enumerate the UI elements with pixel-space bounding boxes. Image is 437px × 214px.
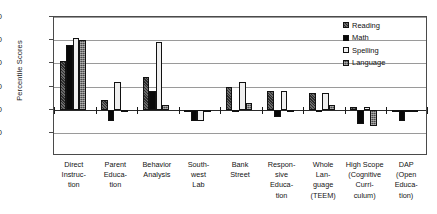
- bar: [184, 110, 191, 112]
- y-tick-mark-40: [49, 62, 53, 63]
- bar: [79, 40, 86, 110]
- legend-label-spelling: Spelling: [352, 47, 379, 55]
- bar: [162, 105, 169, 110]
- bar: [412, 110, 419, 112]
- bar: [60, 61, 67, 110]
- bar: [274, 110, 281, 117]
- y-tick-label-40: 40: [0, 58, 2, 67]
- bar: [226, 87, 233, 110]
- category-tick: [386, 107, 387, 114]
- legend-item-reading[interactable]: Reading: [343, 19, 429, 32]
- bar: [357, 110, 364, 124]
- category-tick: [262, 107, 263, 114]
- category-tick: [345, 107, 346, 114]
- bar: [232, 110, 239, 112]
- legend-item-spelling[interactable]: Spelling: [343, 44, 429, 57]
- y-tick-label-60: 60: [0, 12, 2, 21]
- y-tick-mark-20: [49, 109, 53, 110]
- legend-swatch-spelling: [343, 47, 349, 53]
- x-axis-label-line: Lab: [170, 180, 228, 190]
- legend-item-math[interactable]: Math: [343, 32, 429, 45]
- legend-label-math: Math: [352, 34, 369, 42]
- bar: [316, 110, 323, 112]
- bar: [364, 107, 371, 109]
- bar: [149, 91, 156, 110]
- legend-swatch-language: [343, 60, 349, 66]
- bar: [66, 45, 73, 110]
- bar: [287, 110, 294, 112]
- category-tick: [54, 107, 55, 114]
- bar: [322, 93, 329, 109]
- bar: [239, 82, 246, 110]
- percentile-scores-bar-chart: Percentile Scores 102030405060 Reading M…: [0, 0, 437, 214]
- x-axis-label: DAP(OpenEduca-tion): [377, 160, 435, 201]
- bar: [399, 110, 406, 122]
- chart-legend: Reading Math Spelling Language: [343, 19, 429, 69]
- bar: [114, 82, 121, 110]
- legend-swatch-reading: [343, 22, 349, 28]
- bar: [204, 110, 211, 112]
- bar: [392, 110, 399, 112]
- bar: [246, 103, 253, 110]
- bar: [350, 107, 357, 109]
- bar: [108, 110, 115, 122]
- bar: [329, 105, 336, 110]
- bar: [309, 93, 316, 109]
- y-tick-mark-10: [49, 132, 53, 133]
- x-axis-label-line: tion: [87, 180, 145, 190]
- bar: [281, 91, 288, 110]
- bar: [405, 110, 412, 112]
- x-axis-label-line: DAP: [377, 160, 435, 170]
- category-tick: [427, 107, 428, 114]
- bar: [73, 38, 80, 110]
- x-axis-label-line: (Open: [377, 170, 435, 180]
- bar: [143, 77, 150, 109]
- bar: [197, 110, 204, 122]
- y-tick-mark-50: [49, 39, 53, 40]
- legend-item-language[interactable]: Language: [343, 57, 429, 70]
- y-tick-mark-30: [49, 86, 53, 87]
- y-tick-label-10: 10: [0, 128, 2, 137]
- x-axis-label-line: tion): [377, 191, 435, 201]
- y-tick-label-20: 20: [0, 105, 2, 114]
- y-axis-title: Percentile Scores: [15, 11, 24, 131]
- bar: [267, 91, 274, 110]
- legend-label-reading: Reading: [352, 22, 380, 30]
- y-tick-label-50: 50: [0, 35, 2, 44]
- x-axis-label-line: Educa-: [377, 180, 435, 190]
- category-tick: [137, 107, 138, 114]
- legend-label-language: Language: [352, 59, 385, 67]
- bar: [191, 110, 198, 122]
- y-tick-label-30: 30: [0, 82, 2, 91]
- bar: [370, 110, 377, 126]
- x-axis-labels: DirectInstruc-tionParentEduca-tionBehavi…: [53, 160, 427, 214]
- bar: [121, 110, 128, 112]
- category-tick: [303, 107, 304, 114]
- category-tick: [220, 107, 221, 114]
- y-tick-mark-60: [49, 16, 53, 17]
- category-tick: [179, 107, 180, 114]
- bar: [101, 100, 108, 109]
- legend-swatch-math: [343, 35, 349, 41]
- bar: [156, 42, 163, 109]
- category-tick: [96, 107, 97, 114]
